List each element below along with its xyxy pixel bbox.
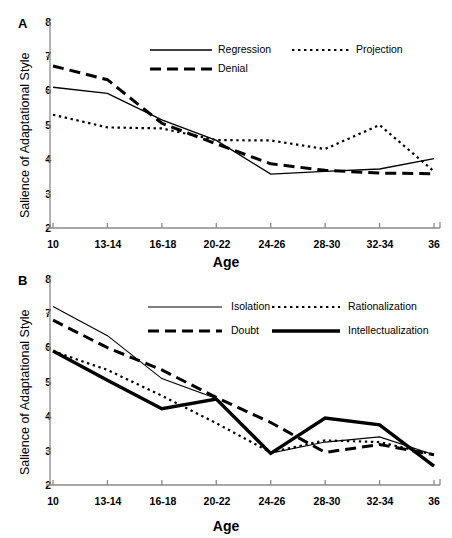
figure-container: A Salience of Adaptational Style 8 7 6 5…	[0, 0, 452, 538]
series-line-regression	[53, 87, 434, 174]
series-line-projection	[53, 115, 434, 172]
series-line-rationalization	[53, 351, 434, 455]
panel-a-x-axis-label: Age	[0, 254, 452, 270]
panel-a-plot	[0, 0, 452, 268]
panel-b: B Salience of Adaptational Style 8 7 6 5…	[0, 265, 452, 538]
series-line-doubt	[53, 320, 434, 455]
panel-b-plot	[0, 265, 452, 538]
panel-a: A Salience of Adaptational Style 8 7 6 5…	[0, 0, 452, 268]
